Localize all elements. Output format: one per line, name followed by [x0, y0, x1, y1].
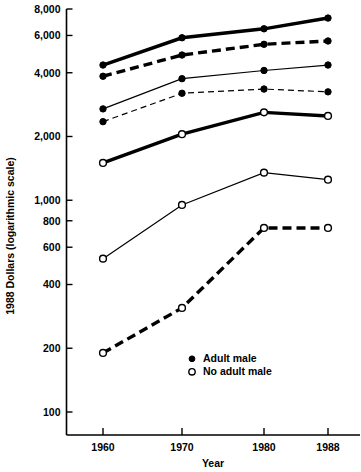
data-point-marker — [261, 86, 267, 92]
data-point-marker — [179, 305, 186, 312]
y-tick-label: 200 — [43, 342, 61, 354]
series-line — [103, 228, 328, 353]
data-point-marker — [261, 109, 268, 116]
data-point-marker — [179, 52, 185, 58]
x-axis-title: Year — [202, 457, 224, 469]
data-point-marker — [325, 62, 331, 68]
chart-legend: Adult maleNo adult male — [189, 352, 272, 377]
y-tick-label: 400 — [43, 278, 61, 290]
data-point-marker — [325, 113, 332, 120]
series-4-adult-male-thin-dashed — [100, 86, 331, 125]
series-5-no-adult-male-thick-solid — [100, 109, 332, 166]
y-tick-label: 600 — [43, 241, 61, 253]
legend-label: Adult male — [203, 352, 257, 364]
y-tick-label: 8,000 — [34, 3, 60, 15]
series-line — [103, 65, 328, 109]
data-point-marker — [179, 131, 186, 138]
data-point-marker — [100, 73, 106, 79]
data-point-marker — [179, 35, 185, 41]
data-point-marker — [100, 62, 106, 68]
data-point-marker — [261, 225, 268, 232]
data-point-marker — [100, 106, 106, 112]
data-point-marker — [261, 41, 267, 47]
series-line — [103, 18, 328, 65]
series-6-no-adult-male-thin-solid — [100, 169, 332, 262]
data-point-marker — [325, 38, 331, 44]
data-point-marker — [261, 169, 268, 176]
data-point-marker — [325, 176, 332, 183]
legend-filled-circle-icon — [189, 356, 195, 362]
chart-container: 8,0006,0004,0002,0001,000800600400200100… — [0, 0, 361, 472]
y-axis: 8,0006,0004,0002,0001,000800600400200100 — [34, 3, 72, 435]
series-7-no-adult-male-thick-dashed — [100, 225, 332, 357]
data-point-marker — [179, 202, 186, 209]
data-point-marker — [100, 160, 107, 167]
data-point-marker — [325, 89, 331, 95]
x-axis: 1960197019801988 — [67, 428, 361, 453]
y-tick-label: 2,000 — [34, 130, 60, 142]
data-point-marker — [325, 225, 332, 232]
data-point-marker — [179, 90, 185, 96]
y-tick-label: 6,000 — [34, 29, 60, 41]
data-point-marker — [325, 15, 331, 21]
data-point-marker — [179, 75, 185, 81]
y-tick-label: 4,000 — [34, 67, 60, 79]
legend-label: No adult male — [203, 365, 272, 377]
y-axis-title: 1988 Dollars (logarithmic scale) — [4, 157, 16, 315]
data-series-group — [100, 15, 332, 357]
series-line — [103, 89, 328, 122]
series-line — [103, 173, 328, 259]
series-2-adult-male-thick-dashed — [100, 38, 331, 80]
y-tick-label: 800 — [43, 215, 61, 227]
data-point-marker — [100, 350, 107, 357]
y-tick-label: 1,000 — [34, 194, 60, 206]
data-point-marker — [261, 67, 267, 73]
x-tick-label: 1980 — [252, 441, 276, 453]
y-tick-label: 100 — [43, 406, 61, 418]
series-line — [103, 112, 328, 163]
data-point-marker — [100, 255, 107, 262]
legend-open-circle-icon — [189, 369, 195, 375]
data-point-marker — [100, 118, 106, 124]
x-tick-label: 1960 — [91, 441, 115, 453]
series-line — [103, 41, 328, 76]
x-tick-label: 1988 — [316, 441, 340, 453]
line-chart: 8,0006,0004,0002,0001,000800600400200100… — [0, 0, 361, 472]
data-point-marker — [261, 26, 267, 32]
x-tick-label: 1970 — [170, 441, 194, 453]
